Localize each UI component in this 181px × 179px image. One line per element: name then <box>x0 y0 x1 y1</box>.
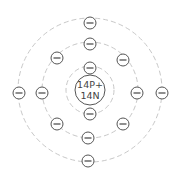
electron <box>84 62 96 74</box>
electron <box>82 155 94 167</box>
electron <box>156 87 168 99</box>
electron <box>131 87 143 99</box>
nucleus: 14P+ 14N <box>75 75 105 105</box>
atom-diagram: 14P+ 14N <box>0 0 181 179</box>
proton-count: 14P+ <box>77 79 103 90</box>
electron <box>84 38 96 50</box>
electron <box>36 87 48 99</box>
electron <box>51 118 63 130</box>
electron <box>117 54 129 66</box>
electron <box>13 87 25 99</box>
electron <box>117 118 129 130</box>
electron <box>51 52 63 64</box>
electron <box>84 108 96 120</box>
electron <box>84 17 96 29</box>
electron <box>82 132 94 144</box>
neutron-count: 14N <box>80 90 99 101</box>
